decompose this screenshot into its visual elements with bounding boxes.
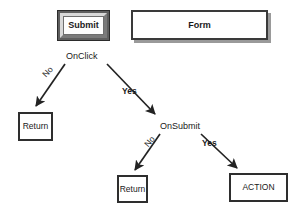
decision-onsubmit: OnSubmit [160,122,200,131]
action-box: ACTION [229,173,288,202]
return-box-1: Return [18,112,53,141]
form-box-label: Form [188,21,211,30]
decision-onclick: OnClick [66,52,98,61]
submit-button-face: Submit [63,16,104,35]
action-box-label: ACTION [242,183,274,192]
form-box: Form [131,10,268,40]
submit-button-bevel: Submit [60,13,107,38]
edge-label-onclick-no: No [41,65,55,79]
submit-button-label: Submit [68,21,99,30]
edge-label-onsubmit-no: No [143,135,157,149]
flowchart-canvas: Submit Form OnClick No Yes Return OnSubm… [0,0,304,215]
return-box-1-label: Return [23,122,49,131]
submit-button[interactable]: Submit [57,10,110,41]
return-box-2-label: Return [120,185,146,194]
edge-label-onclick-yes: Yes [122,87,137,96]
return-box-2: Return [117,175,148,203]
edge-label-onsubmit-yes: Yes [202,139,217,148]
